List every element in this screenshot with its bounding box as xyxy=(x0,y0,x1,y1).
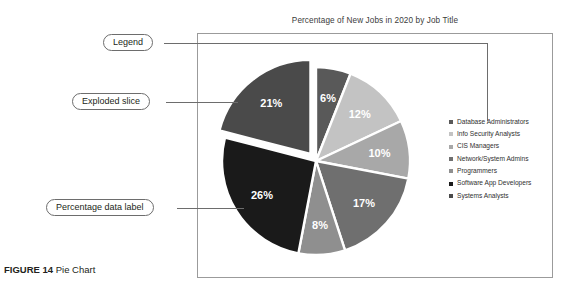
legend-item-label: Software App Developers xyxy=(457,180,531,187)
legend-swatch-icon xyxy=(449,157,453,161)
chart-legend: Database AdministratorsInfo Security Ana… xyxy=(449,116,553,202)
legend-item: Database Administrators xyxy=(449,116,553,128)
callout-exploded-slice: Exploded slice xyxy=(72,93,150,110)
legend-swatch-icon xyxy=(449,120,453,124)
pie-slice-label: 10% xyxy=(368,147,390,159)
legend-item-label: Systems Analysts xyxy=(457,193,509,200)
figure-caption: FIGURE 14 Pie Chart xyxy=(4,264,95,275)
pie-slice-label: 8% xyxy=(312,219,328,231)
legend-item-label: CIS Managers xyxy=(457,143,499,150)
pie-slice-label: 21% xyxy=(260,97,282,109)
legend-item-label: Programmers xyxy=(457,168,497,175)
callout-percentage-data-label: Percentage data label xyxy=(46,199,154,216)
legend-item-label: Network/System Admins xyxy=(457,156,528,163)
legend-item: Programmers xyxy=(449,165,553,177)
leader-line-data-label xyxy=(177,208,244,209)
legend-item: Info Security Analysts xyxy=(449,128,553,140)
legend-swatch-icon xyxy=(449,169,453,173)
leader-line-legend-vertical xyxy=(487,43,488,121)
pie-slice-label: 17% xyxy=(353,197,375,209)
callout-legend: Legend xyxy=(103,34,153,51)
legend-swatch-icon xyxy=(449,145,453,149)
figure-caption-label: FIGURE 14 xyxy=(4,264,53,275)
leader-line-legend-horizontal xyxy=(164,43,487,44)
legend-item: Software App Developers xyxy=(449,177,553,189)
legend-item: Network/System Admins xyxy=(449,153,553,165)
leader-line-exploded-slice xyxy=(166,102,238,103)
figure-caption-text: Pie Chart xyxy=(56,264,96,275)
legend-swatch-icon xyxy=(449,182,453,186)
legend-swatch-icon xyxy=(449,194,453,198)
legend-item-label: Info Security Analysts xyxy=(457,131,520,138)
pie-slice-label: 12% xyxy=(349,108,371,120)
legend-item: Systems Analysts xyxy=(449,190,553,202)
pie-slice-label: 26% xyxy=(251,189,273,201)
chart-title: Percentage of New Jobs in 2020 by Job Ti… xyxy=(197,16,553,25)
legend-item: CIS Managers xyxy=(449,141,553,153)
legend-item-label: Database Administrators xyxy=(457,119,529,126)
pie-slice-label: 6% xyxy=(320,92,336,104)
legend-swatch-icon xyxy=(449,132,453,136)
